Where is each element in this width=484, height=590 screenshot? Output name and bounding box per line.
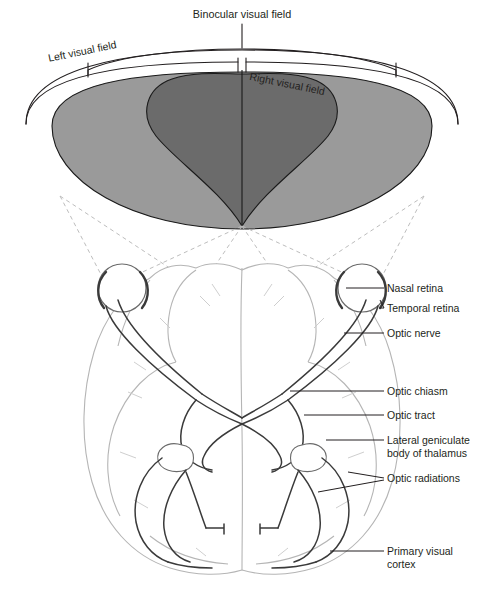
label-nasal-retina: Nasal retina [387, 282, 443, 295]
projection-right-outer2 [376, 196, 424, 288]
label-primary-visual-cortex-line2: cortex [387, 558, 416, 571]
right-lgn [291, 444, 327, 472]
label-optic-nerve: Optic nerve [387, 327, 441, 340]
projection-left-outer2 [60, 196, 108, 288]
label-lateral-geniculate-line1: Lateral geniculate [387, 434, 470, 447]
visual-field-ellipse-group [52, 70, 432, 229]
label-optic-radiations: Optic radiations [387, 472, 460, 485]
visual-pathway-diagram [0, 0, 484, 590]
label-temporal-retina: Temporal retina [387, 302, 459, 315]
left-lgn [158, 444, 194, 472]
label-primary-visual-cortex-line1: Primary visual [387, 545, 453, 558]
binocular-visual-field-label: Binocular visual field [0, 8, 484, 21]
label-optic-tract: Optic tract [387, 409, 435, 422]
label-optic-chiasm: Optic chiasm [387, 385, 448, 398]
label-lateral-geniculate-line2: body of thalamus [387, 447, 467, 460]
